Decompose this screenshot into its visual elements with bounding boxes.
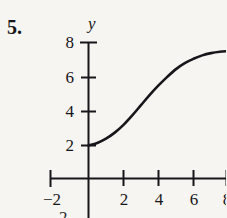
x-tick-label-minus-2: −2 <box>36 191 68 208</box>
y-tick-label-6: 6 <box>50 69 74 86</box>
textbook-figure: 5. y 8 6 4 2 −2 2 4 6 8 2 <box>0 0 226 218</box>
graph-canvas <box>0 0 226 218</box>
y-tick-label-8: 8 <box>50 34 74 51</box>
y-tick-label-2: 2 <box>50 137 74 154</box>
y-axis-label: y <box>88 15 96 32</box>
y-tick-label-4: 4 <box>50 103 74 120</box>
clipped-bleed-glyph: 2 <box>59 209 75 218</box>
x-tick-label-2: 2 <box>111 191 137 208</box>
sigmoid-curve <box>89 51 227 145</box>
x-tick-label-4: 4 <box>146 191 172 208</box>
x-tick-label-8: 8 <box>214 191 226 208</box>
x-tick-label-6: 6 <box>181 191 207 208</box>
